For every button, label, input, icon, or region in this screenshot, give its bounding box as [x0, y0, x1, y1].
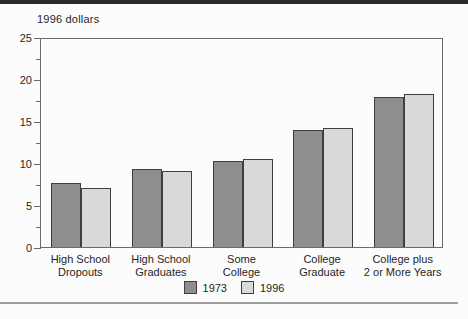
y-major-tick: [34, 164, 41, 165]
x-label-high-school-dropouts: High SchoolDropouts: [40, 253, 121, 279]
bar-1996-high-school-graduates: [162, 171, 192, 247]
bar-1973-high-school-graduates: [132, 169, 162, 247]
top-rule: [0, 0, 468, 4]
y-axis-tick-labels: 0510152025: [0, 38, 34, 248]
y-minor-tick: [36, 185, 41, 186]
y-tick-label-20: 20: [0, 74, 32, 87]
legend-label-1996: 1996: [260, 282, 284, 294]
y-major-tick: [34, 122, 41, 123]
y-tick-label-5: 5: [0, 200, 32, 213]
bar-1996-high-school-dropouts: [81, 188, 111, 247]
legend-swatch-1973: [184, 281, 197, 294]
bar-1973-college-plus-2-or-more-years: [374, 97, 404, 247]
bar-1996-some-college: [243, 159, 273, 247]
y-tick-label-25: 25: [0, 32, 32, 45]
y-tick-label-10: 10: [0, 158, 32, 171]
plot-area: [40, 38, 443, 248]
y-minor-tick: [36, 227, 41, 228]
y-axis-title: 1996 dollars: [37, 13, 99, 25]
x-axis-category-labels: High SchoolDropoutsHigh SchoolGraduatesS…: [40, 253, 443, 279]
x-label-some-college: SomeCollege: [201, 253, 282, 279]
bar-1996-college-plus-2-or-more-years: [404, 94, 434, 247]
y-major-tick: [34, 80, 41, 81]
legend-item-1973: 1973: [184, 281, 227, 294]
bar-1973-high-school-dropouts: [51, 183, 81, 247]
x-label-college-graduate: CollegeGraduate: [282, 253, 363, 279]
legend-item-1996: 1996: [241, 281, 284, 294]
x-label-high-school-graduates: High SchoolGraduates: [121, 253, 202, 279]
bottom-rule: [0, 302, 458, 304]
y-major-tick: [34, 206, 41, 207]
y-minor-tick: [36, 143, 41, 144]
y-major-tick: [34, 38, 41, 39]
legend-label-1973: 1973: [203, 282, 227, 294]
legend: 19731996: [0, 281, 468, 294]
wage-by-education-bar-chart: 1996 dollars 0510152025 High SchoolDropo…: [0, 0, 468, 319]
y-major-tick: [34, 248, 41, 249]
y-tick-label-15: 15: [0, 116, 32, 129]
bar-1996-college-graduate: [323, 128, 353, 247]
y-minor-tick: [36, 101, 41, 102]
bar-1973-some-college: [213, 161, 243, 247]
bar-1973-college-graduate: [293, 130, 323, 247]
y-minor-tick: [36, 59, 41, 60]
y-tick-label-0: 0: [0, 242, 32, 255]
x-label-college-plus-2-or-more-years: College plus2 or More Years: [362, 253, 443, 279]
legend-swatch-1996: [241, 281, 254, 294]
